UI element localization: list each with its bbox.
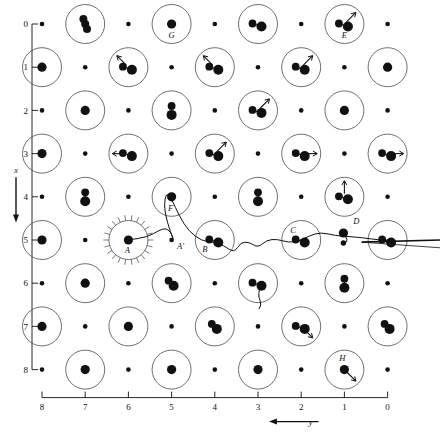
lattice-site (23, 307, 62, 346)
y-axis-tick-label: 3 (24, 149, 29, 159)
site-dot (257, 108, 267, 118)
lattice-site (109, 307, 148, 346)
site-dot (213, 65, 223, 75)
lattice-site (282, 307, 321, 346)
site-dot (124, 322, 133, 331)
site-dot (127, 65, 137, 75)
y-axis-tick-label: 7 (24, 322, 29, 332)
lattice-site (299, 281, 304, 286)
starburst-ray (107, 226, 112, 229)
x-axis-tick-label: 7 (83, 402, 88, 412)
lattice-site (385, 22, 390, 27)
site-dot (126, 367, 131, 372)
site-dot (83, 324, 88, 329)
site-dot (40, 22, 45, 27)
site-dot (256, 151, 261, 156)
site-dot (292, 322, 300, 330)
site-dot (343, 194, 353, 204)
starburst-ray (145, 251, 150, 254)
site-label: E (341, 30, 348, 40)
site-dot (126, 22, 131, 27)
lattice-site (66, 350, 105, 389)
lattice-site (40, 367, 45, 372)
site-dot (213, 22, 218, 27)
site-dot (335, 20, 343, 28)
starburst-ray (104, 245, 109, 247)
site-dot (341, 275, 349, 283)
x-axis-tick-label: 5 (169, 402, 174, 412)
site-dot (169, 281, 179, 291)
lattice-site (385, 195, 390, 200)
lattice-site (126, 195, 131, 200)
site-dot (205, 149, 213, 157)
starburst-ray (118, 217, 120, 222)
site-dot (385, 367, 390, 372)
lattice-site (152, 91, 191, 130)
lattice-site (239, 91, 278, 130)
site-dot (40, 108, 45, 113)
site-dot (300, 65, 310, 75)
site-dot (40, 281, 45, 286)
lattice-site (342, 151, 347, 156)
lattice-site (83, 65, 88, 70)
lattice-site (256, 65, 261, 70)
site-label: C (290, 225, 296, 235)
site-dot (81, 279, 90, 288)
starburst-ray (118, 258, 120, 263)
lattice-site (169, 151, 174, 156)
trajectory-exit (362, 240, 440, 242)
lattice-site (213, 108, 218, 113)
lattice-site (66, 91, 105, 130)
starburst-ray (104, 233, 109, 235)
lattice-site (385, 367, 390, 372)
starburst-ray (131, 215, 132, 220)
y-axis-tick-label: 1 (24, 62, 29, 72)
site-dot (81, 106, 90, 115)
site-dot (385, 324, 395, 334)
lattice-site (126, 281, 131, 286)
lattice-site (239, 264, 278, 310)
y-axis-tick-label: 6 (24, 278, 29, 288)
y-axis-tick-label: 8 (24, 365, 29, 375)
site-dot (212, 324, 222, 334)
site-dot (167, 19, 176, 28)
lattice-site (152, 350, 191, 389)
starburst-ray (137, 258, 139, 263)
lattice-site (213, 22, 218, 27)
lattice-site (299, 195, 304, 200)
lattice-site (152, 264, 191, 303)
site-label: H (338, 353, 346, 363)
site-dot (385, 108, 390, 113)
site-dot (83, 151, 88, 156)
site-dot (256, 65, 261, 70)
site-label: F (167, 203, 174, 213)
starburst-ray (137, 217, 139, 222)
site-dot (213, 151, 223, 161)
lattice-site (23, 134, 62, 173)
site-dot (342, 151, 347, 156)
site-label: G (169, 30, 175, 40)
site-dot (340, 106, 349, 115)
site-dot (342, 324, 347, 329)
lattice-site (23, 221, 62, 260)
lattice-site (169, 324, 174, 329)
site-dot (292, 149, 300, 157)
x-axis-tick-label: 0 (385, 402, 390, 412)
lattice-site (195, 134, 234, 173)
y-axis-arrow-head (13, 215, 19, 223)
lattice-site (239, 177, 278, 216)
site-dot (213, 367, 218, 372)
lattice-site (342, 65, 347, 70)
site-dot (386, 238, 396, 248)
lattice-site (40, 281, 45, 286)
lattice-site (126, 22, 131, 27)
site-dot (40, 367, 45, 372)
lattice-site (299, 367, 304, 372)
lattice-site (325, 264, 364, 303)
lattice-trajectory-figure: 012345678876543210xyAA'BCDEFGH (0, 0, 440, 441)
site-dot (249, 20, 257, 28)
lattice-site (325, 177, 364, 216)
lattice-site (368, 307, 407, 346)
lattice-site (368, 134, 407, 173)
lattice-site (256, 324, 261, 329)
